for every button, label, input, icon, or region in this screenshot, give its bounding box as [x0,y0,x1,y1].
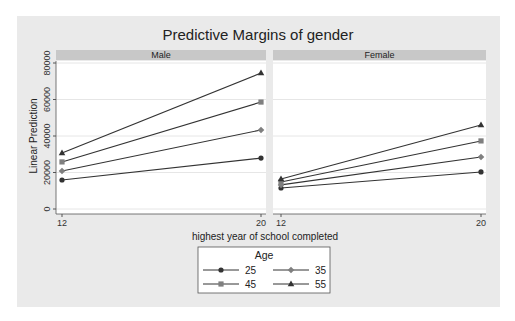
y-tick-label: 0 [42,206,52,211]
legend-label: 25 [245,265,257,276]
circle-marker [59,177,64,182]
circle-marker [218,267,223,272]
y-tick-label: 40000 [42,123,52,148]
x-tick-label: 20 [476,218,486,228]
legend: Age25354555 [198,247,330,293]
y-tick-label: 60000 [42,87,52,112]
strip-label: Male [151,50,171,60]
legend-label: 35 [315,265,327,276]
y-axis-title: Linear Prediction [28,98,39,173]
square-marker [478,138,483,143]
x-axis-title: highest year of school completed [192,231,338,242]
y-tick-label: 20000 [42,160,52,185]
legend-title: Age [255,249,274,261]
square-marker [258,99,263,104]
chart: Predictive Margins of gender Male1220020… [0,0,515,321]
x-tick-label: 20 [256,218,266,228]
x-tick-label: 12 [276,218,286,228]
circle-marker [478,169,483,174]
y-tick-label: 80000 [42,50,52,75]
strip-label: Female [364,50,394,60]
panel-female: Female1220 [273,50,486,228]
panel-male: Male1220020000400006000080000 [42,50,266,228]
circle-marker [258,155,263,160]
square-marker [218,281,223,286]
legend-label: 55 [315,279,327,290]
legend-label: 45 [245,279,257,290]
square-marker [59,159,64,164]
chart-title: Predictive Margins of gender [163,26,354,43]
x-tick-label: 12 [57,218,67,228]
plot-area [273,61,486,214]
